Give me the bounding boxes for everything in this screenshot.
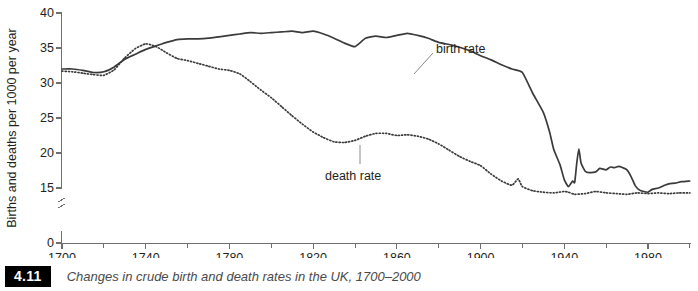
- y-axis-title: Births and deaths per 1000 per year: [5, 28, 19, 227]
- x-tick-label-1780: 1780: [215, 251, 243, 258]
- figure-number-badge: 4.11: [5, 266, 51, 287]
- figure-caption: 4.11 Changes in crude birth and death ra…: [0, 261, 698, 291]
- x-tick-label-1700: 1700: [48, 251, 76, 258]
- line-chart-birth-death-rates: Births and deaths per 1000 per year 40 3…: [0, 0, 698, 258]
- birth-rate-leader-line: [414, 53, 433, 74]
- y-tick-label-25: 25: [40, 111, 54, 125]
- y-axis-break-mark-1: [58, 198, 65, 202]
- y-tick-label-35: 35: [40, 41, 54, 55]
- y-tick-label-40: 40: [40, 6, 54, 20]
- annotation-death-rate: death rate: [325, 169, 381, 183]
- y-tick-label-20: 20: [40, 146, 54, 160]
- figure-caption-text: Changes in crude birth and death rates i…: [67, 269, 421, 284]
- y-tick-label-0: 0: [47, 236, 54, 250]
- x-tick-label-1740: 1740: [132, 251, 160, 258]
- x-tick-label-1820: 1820: [299, 251, 327, 258]
- x-tick-label-1860: 1860: [383, 251, 411, 258]
- x-tick-label-1900: 1900: [467, 251, 495, 258]
- y-tick-label-15: 15: [40, 181, 54, 195]
- x-tick-label-1940: 1940: [550, 251, 578, 258]
- x-tick-label-1980: 1980: [634, 251, 662, 258]
- figure-4-11: Births and deaths per 1000 per year 40 3…: [0, 0, 698, 291]
- y-axis-break-mark-2: [58, 204, 65, 208]
- y-tick-label-30: 30: [40, 76, 54, 90]
- annotation-birth-rate: birth rate: [436, 42, 485, 56]
- chart-area: Births and deaths per 1000 per year 40 3…: [0, 0, 698, 258]
